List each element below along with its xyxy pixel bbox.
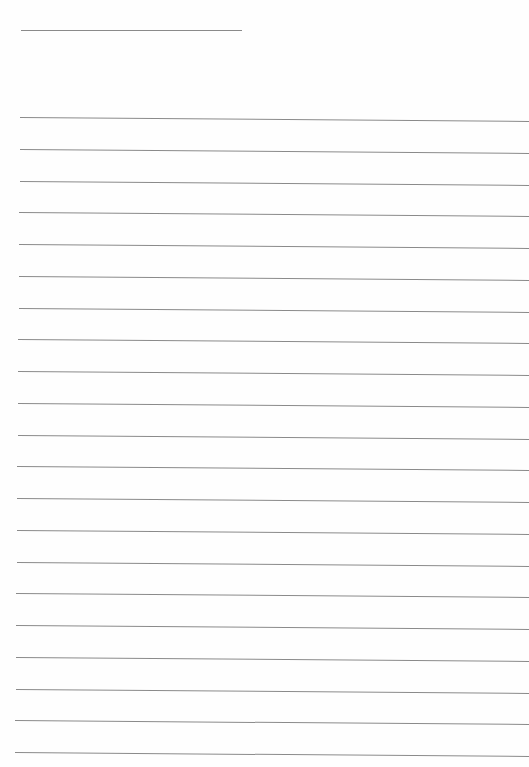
ruled-line [17,498,529,503]
header-line [21,30,242,31]
lined-paper-page [0,0,529,767]
ruled-line [16,657,529,662]
ruled-line [17,530,529,535]
ruled-line [17,466,529,471]
ruled-line [18,339,529,344]
ruled-line [20,181,529,186]
ruled-line [17,562,529,567]
ruled-line [20,149,529,154]
ruled-line [15,752,529,757]
ruled-line [16,689,529,694]
ruled-line [19,244,529,249]
ruled-line [16,593,529,598]
ruled-line [18,403,529,408]
ruled-line [19,276,529,281]
ruled-line [18,371,529,376]
ruled-line [15,720,529,725]
ruled-line [19,212,529,217]
ruled-line [16,625,529,630]
ruled-line [18,435,529,440]
ruled-line [19,308,529,313]
ruled-line [20,117,529,122]
